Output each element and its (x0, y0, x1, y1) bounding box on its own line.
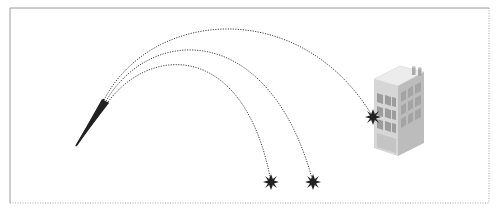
trajectory-mid (106, 50, 313, 182)
trajectory-low (108, 65, 271, 182)
impact-ground-far-icon (305, 174, 321, 190)
launcher-icon (75, 99, 109, 147)
impact-building-icon (365, 109, 381, 125)
impacts (263, 109, 381, 190)
trajectories (104, 29, 373, 182)
building-icon (374, 66, 424, 156)
trajectory-high (104, 29, 373, 117)
impact-ground-near-icon (263, 174, 279, 190)
projectile-diagram (0, 0, 497, 211)
